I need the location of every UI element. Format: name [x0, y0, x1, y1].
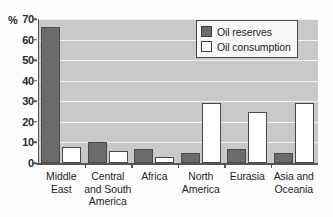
x-axis-tick-mark [224, 163, 226, 168]
y-axis-tick-label: 30 [10, 95, 34, 107]
y-axis-tick-label: 0 [10, 157, 34, 169]
y-axis-tick-label: 40 [10, 75, 34, 87]
bar-group [85, 19, 132, 163]
bar-reserves [274, 153, 293, 163]
x-axis-tick-mark [85, 163, 87, 168]
y-axis-tick-label: 20 [10, 116, 34, 128]
bar-reserves [181, 153, 200, 163]
bar-reserves [88, 142, 107, 163]
y-axis-tick-mark [32, 80, 37, 82]
bar-consumption [295, 103, 314, 163]
bar-group [178, 19, 225, 163]
x-axis-tick-mark [178, 163, 180, 168]
bar-reserves [134, 149, 153, 163]
bar-consumption [155, 157, 174, 163]
y-axis-tick-mark [32, 101, 37, 103]
y-axis-tick-mark [32, 142, 37, 144]
bar-consumption [248, 112, 267, 163]
bar-group [131, 19, 178, 163]
x-axis-category-label-line: Oceania [265, 183, 324, 196]
y-axis-tick-label: 70 [10, 13, 34, 25]
y-axis-tick-mark [32, 121, 37, 123]
y-axis-tick-label: 10 [10, 136, 34, 148]
y-axis-tick-label: 60 [10, 34, 34, 46]
y-axis-tick-mark [32, 59, 37, 61]
oil-reserves-consumption-bar-chart: % Oil reserves Oil consumption 706050403… [0, 0, 333, 217]
bar-consumption [109, 151, 128, 163]
bar-reserves [227, 149, 246, 163]
x-axis-category-label-line: America [172, 183, 231, 196]
y-axis-tick-mark [32, 18, 37, 20]
x-axis-tick-mark [271, 163, 273, 168]
bar-group [38, 19, 85, 163]
x-axis-category-label-line: America [79, 195, 138, 208]
y-axis-tick-label: 50 [10, 54, 34, 66]
bar-reserves [41, 27, 60, 163]
y-axis-tick-mark [32, 162, 37, 164]
x-axis-category-label-line: and South [79, 183, 138, 196]
y-axis-tick-mark [32, 39, 37, 41]
x-axis-category-label: Asia andOceania [265, 170, 324, 195]
bar-group [224, 19, 271, 163]
bar-consumption [202, 103, 221, 163]
x-axis-category-label-line: Asia and [265, 170, 324, 183]
bar-group [271, 19, 318, 163]
bar-consumption [62, 147, 81, 163]
x-axis-tick-mark [131, 163, 133, 168]
